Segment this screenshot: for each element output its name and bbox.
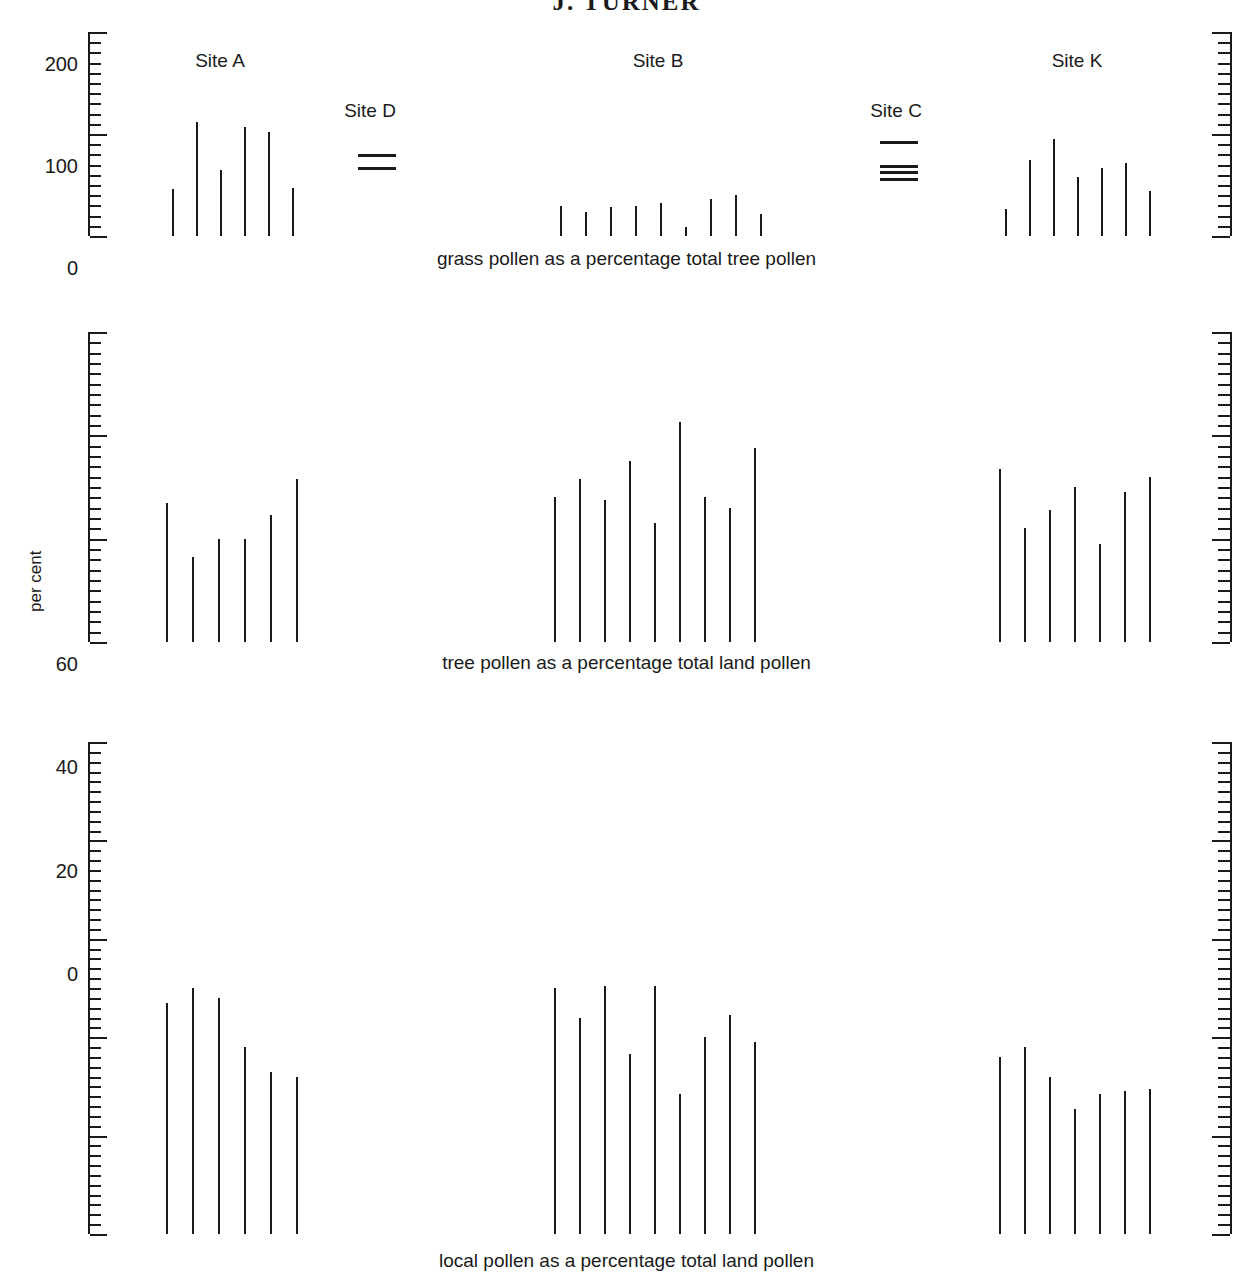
axis-tick-minor: [1218, 205, 1230, 207]
pollen-bar: [1074, 487, 1076, 642]
axis-tick-minor: [1218, 1086, 1230, 1088]
pollen-bar: [1049, 510, 1051, 642]
running-head: J. TURNER: [0, 0, 1253, 16]
axis-tick-minor: [1218, 446, 1230, 448]
pollen-bar: [629, 461, 631, 642]
axis-tick-minor: [90, 821, 101, 823]
axis-tick-minor: [90, 958, 101, 960]
pollen-bar: [296, 1077, 298, 1234]
axis-tick-minor: [90, 570, 101, 572]
axis-tick-minor: [1218, 831, 1230, 833]
axis-tick-minor: [1218, 1155, 1230, 1157]
pollen-bar: [1124, 492, 1126, 642]
panel-local-pollen: 020406080100 local pollen as a percentag…: [0, 742, 1253, 1288]
axis-tick-minor: [1218, 154, 1230, 156]
site-dash-mark: [880, 178, 918, 181]
axis-tick-minor: [1218, 1018, 1230, 1020]
pollen-bar: [172, 189, 174, 236]
axis-tick-major: [90, 435, 107, 437]
axis-tick-major: [1212, 1234, 1230, 1236]
pollen-bar: [604, 500, 606, 642]
pollen-bar: [1053, 139, 1055, 236]
axis-tick-minor: [1218, 890, 1230, 892]
axis-tick-minor: [90, 998, 101, 1000]
axis-tick-minor: [90, 1106, 101, 1108]
axis-tick-major: [1212, 539, 1230, 541]
axis-tick-major: [1212, 1037, 1230, 1039]
pollen-bar: [729, 1015, 731, 1234]
axis-tick-major: [1212, 134, 1230, 136]
axis-tick-minor: [90, 175, 101, 177]
pollen-bar: [1024, 528, 1026, 642]
axis-tick-minor: [1218, 1057, 1230, 1059]
bar-set-a-panel3: [160, 742, 300, 1234]
axis-tick-minor: [1218, 425, 1230, 427]
pollen-bar: [754, 1042, 756, 1234]
axis-tick-minor: [90, 909, 101, 911]
axis-tick-minor: [1218, 1185, 1230, 1187]
axis-tick-minor: [1218, 518, 1230, 520]
pollen-bar: [292, 188, 294, 236]
axis-tick-minor: [1218, 1224, 1230, 1226]
axis-tick-minor: [90, 446, 101, 448]
pollen-bar: [710, 199, 712, 236]
axis-tick-minor: [90, 114, 101, 116]
axis-tick-major: [90, 939, 107, 941]
axis-tick-minor: [1218, 497, 1230, 499]
axis-tick-minor: [1218, 1126, 1230, 1128]
axis-tick-minor: [1218, 1214, 1230, 1216]
axis-tick-minor: [1218, 1067, 1230, 1069]
axis-tick-major: [1212, 332, 1230, 334]
axis-tick-minor: [1218, 549, 1230, 551]
axis-tick-minor: [90, 1155, 101, 1157]
axis-tick-minor: [1218, 342, 1230, 344]
pollen-bar: [196, 122, 198, 236]
pollen-bar: [268, 132, 270, 236]
axis-tick-minor: [90, 363, 101, 365]
axis-tick-minor: [90, 466, 101, 468]
figure-page: J. TURNER 0100200 Site A Site D Site B S…: [0, 0, 1253, 1288]
axis-tick-minor: [1218, 384, 1230, 386]
pollen-bar: [1099, 1094, 1101, 1234]
pollen-bar: [654, 986, 656, 1234]
axis-tick-minor: [90, 772, 101, 774]
axis-tick-minor: [1218, 590, 1230, 592]
axis-tick-minor: [90, 1018, 101, 1020]
axis-tick-minor: [90, 497, 101, 499]
axis-tick-minor: [90, 342, 101, 344]
axis-tick-minor: [90, 508, 101, 510]
bar-set-k-panel1: [995, 32, 1161, 236]
axis-tick-minor: [1218, 791, 1230, 793]
axis-tick-minor: [90, 580, 101, 582]
axis-tick-minor: [90, 1008, 101, 1010]
axis-tick-major: [90, 742, 107, 744]
axis-tick-minor: [1218, 949, 1230, 951]
axis-tick-major: [90, 236, 107, 238]
axis-tick-minor: [1218, 195, 1230, 197]
axis-tick-minor: [90, 850, 101, 852]
axis-tick-minor: [1218, 1106, 1230, 1108]
axis-tick-minor: [90, 528, 101, 530]
pollen-bar: [192, 557, 194, 642]
pollen-bar: [679, 422, 681, 642]
axis-tick-minor: [1218, 919, 1230, 921]
axis-tick-minor: [90, 487, 101, 489]
axis-tick-minor: [90, 477, 101, 479]
pollen-bar: [1149, 477, 1151, 642]
axis-tick-minor: [1218, 477, 1230, 479]
axis-tick-minor: [90, 949, 101, 951]
axis-tick-minor: [1218, 1096, 1230, 1098]
pollen-bar: [1099, 544, 1101, 642]
pollen-bar: [1149, 1089, 1151, 1234]
axis-tick-minor: [1218, 165, 1230, 167]
pollen-bar: [1101, 168, 1103, 236]
axis-tick-minor: [90, 63, 101, 65]
axis-tick-minor: [90, 1195, 101, 1197]
site-group-k-panel1: Site K: [995, 32, 1161, 236]
pollen-bar: [1124, 1091, 1126, 1234]
axis-tick-minor: [90, 518, 101, 520]
bar-set-a-panel2: [160, 332, 300, 642]
pollen-bar: [270, 1072, 272, 1234]
pollen-bar: [244, 539, 246, 642]
axis-tick-minor: [90, 165, 101, 167]
